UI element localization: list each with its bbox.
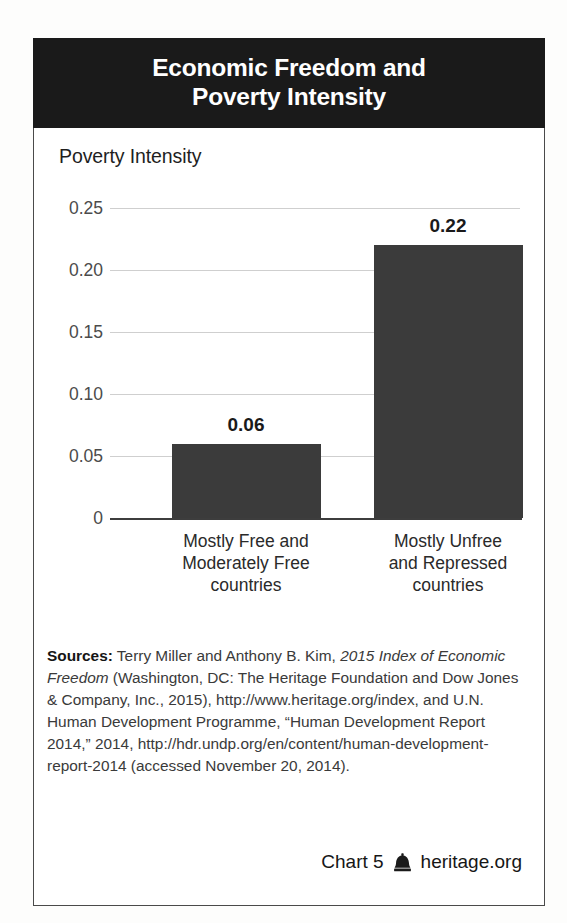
x-axis-category-line: Moderately Free bbox=[141, 552, 351, 574]
chart-area: Poverty Intensity 00.050.100.150.200.250… bbox=[33, 128, 545, 628]
plot-region: 00.050.100.150.200.250.06Mostly Free and… bbox=[33, 128, 545, 628]
bar bbox=[172, 444, 321, 518]
chart-title-banner: Economic Freedom and Poverty Intensity bbox=[33, 38, 545, 128]
x-axis-category-line: countries bbox=[343, 574, 553, 596]
y-axis-tick-label: 0.20 bbox=[33, 260, 103, 281]
bar-value-label: 0.22 bbox=[430, 215, 467, 237]
x-axis-category-line: Mostly Unfree bbox=[343, 530, 553, 552]
sources-text-1: Terry Miller and Anthony B. Kim, bbox=[113, 647, 340, 664]
chart-title: Economic Freedom and Poverty Intensity bbox=[134, 54, 444, 112]
y-axis-tick-label: 0.05 bbox=[33, 446, 103, 467]
bar bbox=[374, 245, 523, 518]
x-axis-line bbox=[110, 518, 522, 520]
x-axis-category-line: countries bbox=[141, 574, 351, 596]
y-axis-tick-label: 0 bbox=[33, 508, 103, 529]
bar-value-label: 0.06 bbox=[228, 414, 265, 436]
chart-title-line-1: Economic Freedom and bbox=[152, 54, 426, 81]
y-axis-tick-label: 0.15 bbox=[33, 322, 103, 343]
y-axis-tick-label: 0.25 bbox=[33, 198, 103, 219]
y-gridline bbox=[110, 208, 520, 209]
sources-text-2: (Washington, DC: The Heritage Foundation… bbox=[47, 669, 518, 774]
heritage-site-label: heritage.org bbox=[421, 851, 522, 873]
chart-credit: Chart 5 heritage.org bbox=[321, 851, 522, 873]
sources-label: Sources: bbox=[47, 647, 113, 664]
sources-note: Sources: Terry Miller and Anthony B. Kim… bbox=[47, 645, 527, 777]
x-axis-category-line: and Repressed bbox=[343, 552, 553, 574]
chart-card-page: Economic Freedom and Poverty Intensity P… bbox=[0, 0, 567, 923]
y-axis-tick-label: 0.10 bbox=[33, 384, 103, 405]
liberty-bell-icon bbox=[393, 852, 412, 873]
x-axis-category-line: Mostly Free and bbox=[141, 530, 351, 552]
chart-title-line-2: Poverty Intensity bbox=[152, 83, 426, 112]
chart-number-label: Chart 5 bbox=[321, 851, 383, 873]
x-axis-category-label: Mostly Unfreeand Repressedcountries bbox=[343, 530, 553, 596]
x-axis-category-label: Mostly Free andModerately Freecountries bbox=[141, 530, 351, 596]
